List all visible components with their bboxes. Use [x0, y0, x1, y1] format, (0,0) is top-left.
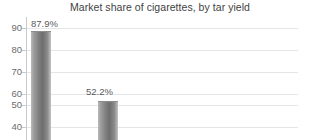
- bar-1-value-label: 87.9%: [31, 18, 58, 29]
- y-tick-label-80: 80: [0, 45, 22, 55]
- y-tick-mark-40: [22, 127, 26, 128]
- y-tick-label-90: 90: [0, 23, 22, 33]
- gridline-40: [27, 127, 298, 128]
- y-tick-mark-70: [22, 72, 26, 73]
- y-tick-mark-60: [22, 94, 26, 95]
- bar-2-value-label: 52.2%: [86, 86, 113, 97]
- y-tick-label-50: 50: [0, 100, 22, 110]
- y-axis-tick-labels: 90 80 70 60 50 40: [0, 0, 22, 140]
- y-tick-label-70: 70: [0, 67, 22, 77]
- y-tick-mark-90: [22, 28, 26, 29]
- y-tick-label-40: 40: [0, 122, 22, 132]
- gridline-70: [27, 72, 298, 73]
- gridline-80: [27, 50, 298, 51]
- chart-title: Market share of cigarettes, by tar yield: [0, 1, 320, 13]
- y-tick-mark-80: [22, 50, 26, 51]
- gridline-55: [27, 105, 298, 106]
- bar-2[interactable]: [98, 101, 118, 140]
- gridline-60: [27, 94, 298, 95]
- bar-1[interactable]: [31, 31, 51, 140]
- y-tick-mark-50: [22, 105, 26, 106]
- plot-area: 87.9% 52.2%: [27, 17, 298, 140]
- gridline-90: [27, 28, 298, 29]
- chart-container: Market share of cigarettes, by tar yield…: [0, 0, 320, 140]
- y-tick-label-60: 60: [0, 89, 22, 99]
